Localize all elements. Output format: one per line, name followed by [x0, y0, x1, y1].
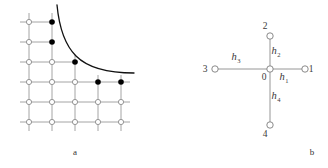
stencil-edge-label-h3: h3: [232, 51, 241, 64]
stencil-node-north: [267, 33, 273, 39]
hyperbola-curve: [57, 5, 134, 73]
hyperbola-path: [57, 5, 134, 73]
stencil-node-label-north: 2: [263, 21, 268, 31]
grid-node-open: [26, 99, 31, 104]
grid-node-open: [118, 99, 123, 104]
stencil-edge-label-h1: h1: [280, 71, 289, 84]
grid-node-open: [72, 99, 77, 104]
edge-label-subscript: 3: [237, 57, 240, 64]
grid-node-filled: [49, 19, 55, 25]
stencil-edge-label-group: h1h2h3h4: [232, 45, 289, 103]
stencil-node-label-center: 0: [262, 72, 267, 82]
filled-node-group: [49, 19, 124, 85]
grid-node-open: [72, 119, 77, 124]
figure-root: a 01234 h1h2h3h4 b: [0, 0, 328, 168]
grid-node-filled: [49, 39, 55, 45]
stencil-node-label-group: 01234: [203, 21, 314, 139]
stencil-edge-group: [215, 36, 305, 125]
grid-node-filled: [118, 79, 124, 85]
grid-node-open: [26, 19, 31, 24]
edge-label-base: h: [232, 51, 237, 62]
grid-node-open: [49, 59, 54, 64]
grid-node-open: [26, 59, 31, 64]
panel-b-caption: b: [310, 147, 315, 157]
edge-label-subscript: 4: [277, 96, 281, 103]
stencil-node-east: [302, 66, 308, 72]
edge-label-subscript: 1: [285, 77, 288, 84]
grid-node-filled: [72, 59, 78, 65]
edge-label-subscript: 2: [277, 51, 280, 58]
grid-node-open: [49, 79, 54, 84]
grid-node-open: [95, 119, 100, 124]
grid-vertical-lines: [29, 13, 121, 131]
grid-node-open: [72, 79, 77, 84]
stencil-node-west: [212, 66, 218, 72]
stencil-node-label-east: 1: [309, 64, 314, 74]
stencil-node-south: [267, 122, 273, 128]
panel-a-grid-hyperbola: a: [0, 0, 164, 168]
grid-node-open: [95, 99, 100, 104]
grid-node-open: [49, 119, 54, 124]
grid-node-open: [26, 39, 31, 44]
stencil-node-label-south: 4: [263, 129, 268, 139]
grid-node-filled: [95, 79, 101, 85]
grid-node-open: [26, 119, 31, 124]
grid-node-open: [26, 79, 31, 84]
grid-node-open: [49, 99, 54, 104]
stencil-node-group: [212, 33, 308, 128]
panel-a-caption: a: [73, 147, 77, 157]
edge-label-base: h: [272, 45, 277, 56]
edge-label-base: h: [272, 90, 277, 101]
stencil-node-label-west: 3: [203, 64, 208, 74]
panel-b-five-point-stencil: 01234 h1h2h3h4 b: [164, 0, 328, 168]
stencil-edge-label-h2: h2: [272, 45, 281, 58]
stencil-node-center: [267, 66, 273, 72]
edge-label-base: h: [280, 71, 285, 82]
stencil-edge-label-h4: h4: [272, 90, 282, 103]
grid-node-open: [118, 119, 123, 124]
